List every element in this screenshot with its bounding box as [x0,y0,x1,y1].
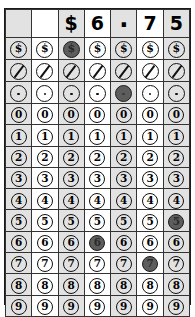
digit-bubble-6-col-2[interactable]: 6 [37,235,53,251]
digit-bubble-8-col-4[interactable]: 8 [89,278,105,294]
decimal-point-row-cell-col-7[interactable] [163,82,189,104]
digit-9-cell-col-1[interactable]: 9 [6,295,32,316]
digit-bubble-7-col-7[interactable]: 7 [168,256,184,272]
digit-9-cell-col-7[interactable]: 9 [163,295,189,316]
decimal-point-row-cell-col-6[interactable] [137,82,163,104]
digit-0-cell-col-3[interactable]: 0 [58,104,84,125]
digit-bubble-0-col-2[interactable]: 0 [37,107,53,123]
digit-7-cell-col-2[interactable]: 7 [32,253,58,274]
digit-bubble-6-col-5[interactable]: 6 [116,235,132,251]
digit-2-cell-col-3[interactable]: 2 [58,146,84,167]
digit-bubble-1-col-2[interactable]: 1 [37,129,53,145]
digit-7-cell-col-4[interactable]: 7 [84,253,110,274]
digit-bubble-4-col-7[interactable]: 4 [168,193,184,209]
digit-5-cell-col-1[interactable]: 5 [6,210,32,231]
fraction-bar-row-cell-col-4[interactable] [84,60,110,82]
digit-bubble-4-col-5[interactable]: 4 [116,193,132,209]
digit-6-cell-col-1[interactable]: 6 [6,231,32,252]
digit-1-cell-col-5[interactable]: 1 [111,125,137,146]
digit-1-cell-col-7[interactable]: 1 [163,125,189,146]
digit-bubble-0-col-1[interactable]: 0 [11,107,27,123]
digit-5-cell-col-5[interactable]: 5 [111,210,137,231]
digit-6-cell-col-3[interactable]: 6 [58,231,84,252]
digit-bubble-8-col-1[interactable]: 8 [11,278,27,294]
digit-6-cell-col-2[interactable]: 6 [32,231,58,252]
dot-icon-bubble-col-5[interactable] [115,85,132,102]
digit-8-cell-col-1[interactable]: 8 [6,274,32,295]
dollar-sign-row-cell-col-4[interactable]: $ [84,38,110,60]
decimal-point-row-cell-col-3[interactable] [58,82,84,104]
digit-bubble-9-col-1[interactable]: 9 [11,299,27,315]
digit-bubble-5-col-1[interactable]: 5 [11,214,27,230]
digit-bubble-2-col-6[interactable]: 2 [142,150,158,166]
digit-bubble-6-col-7[interactable]: 6 [168,235,184,251]
digit-1-cell-col-2[interactable]: 1 [32,125,58,146]
digit-bubble-5-col-2[interactable]: 5 [37,214,53,230]
slash-icon-bubble-col-1[interactable] [10,63,27,80]
fraction-bar-row-cell-col-1[interactable] [6,60,32,82]
digit-0-cell-col-7[interactable]: 0 [163,104,189,125]
digit-bubble-3-col-5[interactable]: 3 [116,171,132,187]
dollar-sign-row-cell-col-2[interactable]: $ [32,38,58,60]
digit-bubble-1-col-6[interactable]: 1 [142,129,158,145]
dot-icon-bubble-col-7[interactable] [168,85,185,102]
digit-9-cell-col-2[interactable]: 9 [32,295,58,316]
digit-bubble-5-col-6[interactable]: 5 [142,214,158,230]
digit-bubble-6-col-6[interactable]: 6 [142,235,158,251]
slash-icon-bubble-col-2[interactable] [36,63,53,80]
digit-0-cell-col-6[interactable]: 0 [137,104,163,125]
digit-4-cell-col-1[interactable]: 4 [6,189,32,210]
digit-bubble-0-col-6[interactable]: 0 [142,107,158,123]
digit-4-cell-col-6[interactable]: 4 [137,189,163,210]
dot-icon-bubble-col-1[interactable] [10,85,27,102]
digit-5-cell-col-7[interactable]: 5 [163,210,189,231]
dollar-sign-row-cell-col-7[interactable]: $ [163,38,189,60]
digit-5-cell-col-6[interactable]: 5 [137,210,163,231]
digit-bubble-3-col-4[interactable]: 3 [89,171,105,187]
digit-3-cell-col-3[interactable]: 3 [58,167,84,188]
digit-bubble-6-col-3[interactable]: 6 [63,235,79,251]
digit-bubble-3-col-7[interactable]: 3 [168,171,184,187]
digit-bubble-4-col-4[interactable]: 4 [89,193,105,209]
digit-bubble-9-col-6[interactable]: 9 [142,299,158,315]
digit-bubble-9-col-2[interactable]: 9 [37,299,53,315]
dot-icon-bubble-col-2[interactable] [36,85,53,102]
digit-bubble-8-col-6[interactable]: 8 [142,278,158,294]
digit-0-cell-col-1[interactable]: 0 [6,104,32,125]
digit-bubble-5-col-3[interactable]: 5 [63,214,79,230]
digit-bubble-6-col-1[interactable]: 6 [11,235,27,251]
digit-3-cell-col-5[interactable]: 3 [111,167,137,188]
digit-bubble-1-col-7[interactable]: 1 [168,129,184,145]
slash-icon-bubble-col-7[interactable] [168,63,185,80]
digit-bubble-4-col-3[interactable]: 4 [63,193,79,209]
digit-1-cell-col-3[interactable]: 1 [58,125,84,146]
digit-7-cell-col-1[interactable]: 7 [6,253,32,274]
digit-bubble-8-col-7[interactable]: 8 [168,278,184,294]
decimal-point-row-cell-col-2[interactable] [32,82,58,104]
digit-bubble-2-col-4[interactable]: 2 [89,150,105,166]
digit-2-cell-col-4[interactable]: 2 [84,146,110,167]
digit-bubble-9-col-3[interactable]: 9 [63,299,79,315]
digit-8-cell-col-4[interactable]: 8 [84,274,110,295]
digit-bubble-7-col-5[interactable]: 7 [116,256,132,272]
digit-4-cell-col-7[interactable]: 4 [163,189,189,210]
digit-bubble-1-col-1[interactable]: 1 [11,129,27,145]
digit-bubble-7-col-1[interactable]: 7 [11,256,27,272]
digit-bubble-3-col-3[interactable]: 3 [63,171,79,187]
digit-bubble-6-col-4[interactable]: 6 [89,235,105,251]
digit-8-cell-col-3[interactable]: 8 [58,274,84,295]
digit-bubble-9-col-4[interactable]: 9 [89,299,105,315]
digit-bubble-4-col-1[interactable]: 4 [11,193,27,209]
dot-icon-bubble-col-4[interactable] [89,85,106,102]
digit-bubble-0-col-3[interactable]: 0 [63,107,79,123]
digit-1-cell-col-6[interactable]: 1 [137,125,163,146]
digit-6-cell-col-4[interactable]: 6 [84,231,110,252]
digit-bubble-2-col-5[interactable]: 2 [116,150,132,166]
digit-3-cell-col-4[interactable]: 3 [84,167,110,188]
digit-bubble-1-col-3[interactable]: 1 [63,129,79,145]
slash-icon-bubble-col-5[interactable] [115,63,132,80]
slash-icon-bubble-col-3[interactable] [63,63,80,80]
fraction-bar-row-cell-col-6[interactable] [137,60,163,82]
slash-icon-bubble-col-6[interactable] [142,63,159,80]
digit-bubble-2-col-3[interactable]: 2 [63,150,79,166]
